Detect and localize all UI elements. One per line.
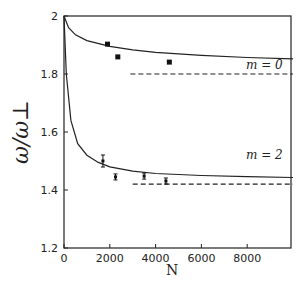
x-tick-label: 8000 (233, 252, 261, 265)
data-points (101, 42, 172, 184)
data-point (114, 175, 117, 178)
data-point (143, 175, 146, 178)
chart: 020004000600080001.21.41.61.82 m = 0 m =… (0, 0, 298, 287)
plot-frame (64, 16, 291, 248)
y-tick-label: 1.4 (41, 184, 59, 197)
data-point (101, 160, 104, 163)
data-point (105, 42, 110, 47)
y-tick-label: 2 (51, 10, 58, 23)
data-point (115, 54, 120, 59)
annotation-m2: m = 2 (246, 148, 283, 162)
y-tick-label: 1.2 (41, 242, 59, 255)
data-point (164, 180, 167, 183)
data-point (167, 60, 172, 65)
x-axis-label: N (166, 262, 178, 278)
x-tick-label: 6000 (187, 252, 215, 265)
annotation-m0: m = 0 (246, 58, 283, 72)
series-line (64, 16, 293, 59)
y-axis-label: ω/ω⊥ (8, 100, 33, 164)
y-tick-label: 1.6 (41, 126, 59, 139)
axis-ticks: 020004000600080001.21.41.61.82 (41, 10, 262, 265)
x-tick-label: 2000 (96, 252, 124, 265)
x-tick-label: 0 (61, 252, 68, 265)
y-tick-label: 1.8 (41, 68, 59, 81)
